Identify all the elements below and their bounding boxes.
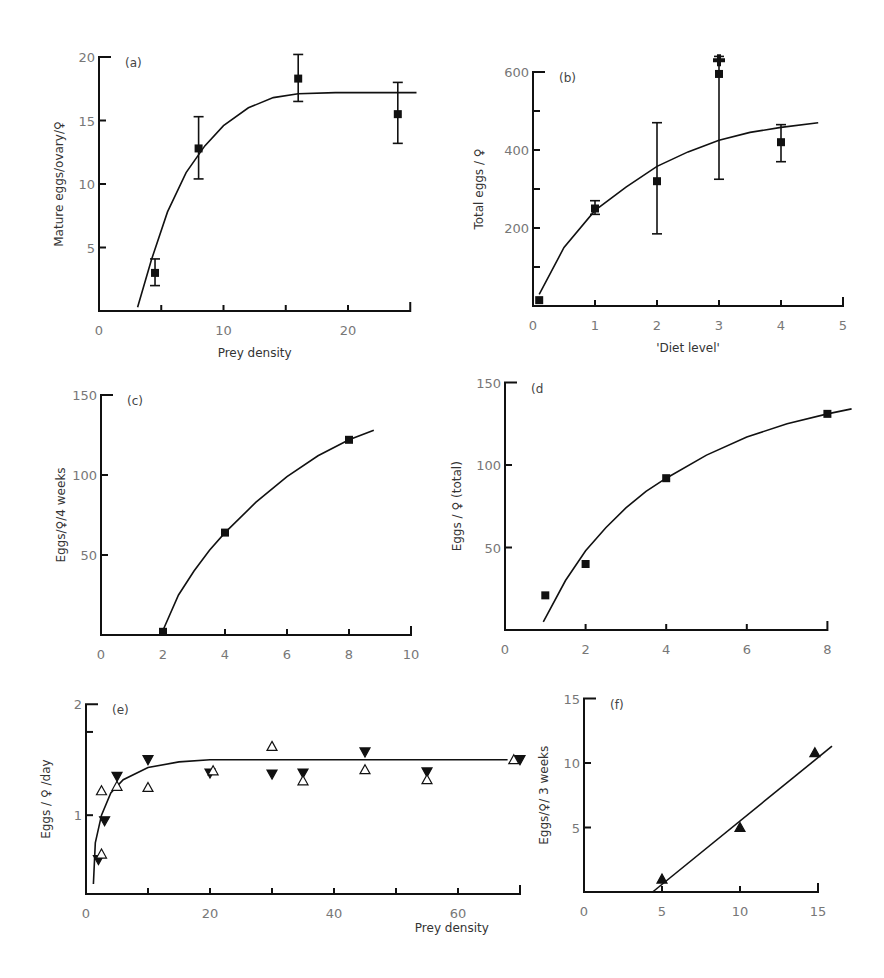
data-point-square — [221, 529, 229, 537]
y-tick-label: 10 — [563, 756, 580, 771]
panel-e-chart: 020406012(e)Prey densityEggs / ♀ /day — [39, 697, 525, 935]
x-tick-label: 10 — [215, 323, 232, 338]
data-point-triangle-up-filled — [810, 748, 820, 757]
y-axis-title: Eggs/♀/ 3 weeks — [537, 746, 551, 845]
x-tick-label: 2 — [581, 642, 589, 657]
data-point-triangle-up-open — [97, 849, 107, 858]
axis-lines — [505, 383, 827, 631]
x-tick-label: 4 — [662, 642, 670, 657]
y-tick-label: 15 — [78, 114, 95, 129]
y-tick-label: 150 — [72, 388, 97, 403]
panel-label: (d — [531, 382, 543, 396]
data-point-square — [823, 410, 831, 418]
y-tick-label: 5 — [572, 821, 580, 836]
x-axis-title: Prey density — [415, 921, 489, 935]
data-point-square — [394, 110, 402, 118]
x-tick-label: 40 — [326, 906, 343, 921]
data-point-triangle-up-open — [422, 775, 432, 784]
x-tick-label: 0 — [501, 642, 509, 657]
y-tick-label: 100 — [476, 458, 501, 473]
panel-label: (f) — [610, 698, 624, 712]
x-tick-label: 3 — [715, 318, 723, 333]
y-tick-label: 400 — [504, 143, 529, 158]
panel-b-chart: 012345200400600(b)'Diet level'Total eggs… — [472, 54, 847, 355]
data-point-square — [653, 177, 661, 185]
x-tick-label: 5 — [839, 318, 847, 333]
x-tick-label: 6 — [283, 647, 291, 662]
x-tick-label: 8 — [345, 647, 353, 662]
data-point-square — [159, 628, 167, 636]
data-point-square — [777, 138, 785, 146]
y-tick-label: 15 — [563, 692, 580, 707]
y-axis-title: Total eggs / ♀ — [472, 148, 486, 230]
fit-curve — [543, 409, 851, 622]
x-tick-label: 5 — [658, 904, 666, 919]
fit-curve — [93, 760, 507, 884]
y-axis-title: Eggs/♀/4 weeks — [54, 467, 68, 562]
data-point-square — [151, 269, 159, 277]
y-axis-title: Eggs / ♀ /day — [39, 759, 53, 838]
y-tick-label: 2 — [74, 697, 82, 712]
x-tick-label: 4 — [221, 647, 229, 662]
fit-curve — [163, 430, 374, 630]
panel-label: (e) — [112, 703, 129, 717]
panel-label: (a) — [125, 56, 142, 70]
y-tick-label: 10 — [78, 177, 95, 192]
x-tick-label: 20 — [202, 906, 219, 921]
data-point-triangle-up-open — [360, 765, 370, 774]
panel-f-chart: 05101551015(f)Eggs/♀/ 3 weeks — [537, 692, 832, 920]
panel-d-chart: 0246850100150(dEggs / ♀ (total) — [450, 376, 852, 658]
y-tick-label: 600 — [504, 65, 529, 80]
y-axis-title: Eggs / ♀ (total) — [450, 461, 464, 551]
axis-lines — [99, 57, 410, 311]
data-point-triangle-up-open — [97, 786, 107, 795]
data-point-square — [591, 205, 599, 213]
data-point-square — [294, 75, 302, 83]
y-tick-label: 100 — [72, 468, 97, 483]
x-tick-label: 6 — [743, 642, 751, 657]
x-tick-label: 8 — [823, 642, 831, 657]
y-axis-title: Mature eggs/ovary/♀ — [52, 121, 66, 246]
panel-a-chart: 010205101520(a)Prey densityMature eggs/o… — [52, 50, 417, 360]
x-tick-label: 0 — [82, 906, 90, 921]
data-point-square — [541, 591, 549, 599]
y-tick-label: 50 — [484, 541, 501, 556]
axis-lines — [533, 72, 843, 306]
axis-lines — [86, 704, 520, 894]
x-tick-label: 0 — [97, 647, 105, 662]
data-point-triangle-up-open — [298, 776, 308, 785]
data-point-triangle-up-filled — [657, 874, 667, 883]
panel-label: (c) — [127, 394, 143, 408]
x-tick-label: 0 — [529, 318, 537, 333]
data-point-square — [582, 560, 590, 568]
data-point-square — [662, 474, 670, 482]
data-point-triangle-up-open — [267, 741, 277, 750]
x-tick-label: 15 — [810, 904, 827, 919]
y-tick-label: 5 — [87, 241, 95, 256]
data-point-triangle-up-open — [143, 782, 153, 791]
data-point-triangle-down-filled — [100, 817, 110, 826]
fit-curve — [138, 93, 417, 308]
data-point-square — [535, 296, 543, 304]
x-axis-title: Prey density — [218, 346, 292, 360]
axis-lines — [584, 699, 818, 893]
data-point-square — [715, 70, 723, 78]
y-tick-label: 150 — [476, 376, 501, 391]
data-point-triangle-down-filled — [267, 770, 277, 779]
x-tick-label: 60 — [450, 906, 467, 921]
fit-curve — [539, 123, 818, 295]
x-tick-label: 2 — [159, 647, 167, 662]
x-tick-label: 10 — [732, 904, 749, 919]
y-tick-label: 20 — [78, 50, 95, 65]
x-tick-label: 0 — [95, 323, 103, 338]
data-point-square — [195, 144, 203, 152]
x-tick-label: 0 — [580, 904, 588, 919]
x-axis-title: 'Diet level' — [656, 341, 720, 355]
axis-lines — [101, 395, 411, 635]
y-tick-label: 1 — [74, 808, 82, 823]
y-tick-label: 200 — [504, 221, 529, 236]
fit-curve — [653, 746, 832, 892]
data-point-triangle-down-filled — [112, 772, 122, 781]
data-point-triangle-down-filled — [143, 756, 153, 765]
data-point-square — [345, 436, 353, 444]
